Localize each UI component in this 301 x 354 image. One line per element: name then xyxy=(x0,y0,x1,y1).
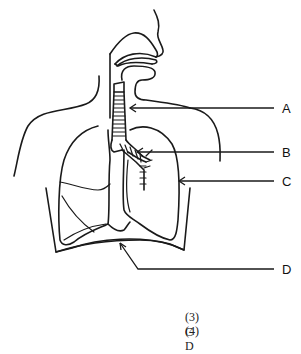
leader-b xyxy=(137,148,274,156)
option-4: (4) D xyxy=(179,309,199,354)
option-4-number: (4) xyxy=(185,324,199,338)
bronchi xyxy=(111,140,152,190)
label-c: C xyxy=(282,174,291,189)
option-4-text: D xyxy=(185,339,194,353)
leader-c xyxy=(179,177,274,185)
trachea xyxy=(112,82,126,140)
lung-left-side xyxy=(59,126,110,245)
lung-right-side xyxy=(123,127,179,240)
label-b: B xyxy=(282,145,291,160)
chest-wall xyxy=(46,188,190,252)
leader-lines xyxy=(120,104,274,269)
torso-outline xyxy=(14,76,220,176)
leader-d xyxy=(120,243,274,269)
head-outline xyxy=(110,10,190,118)
label-d: D xyxy=(282,262,291,277)
label-a: A xyxy=(282,101,291,116)
